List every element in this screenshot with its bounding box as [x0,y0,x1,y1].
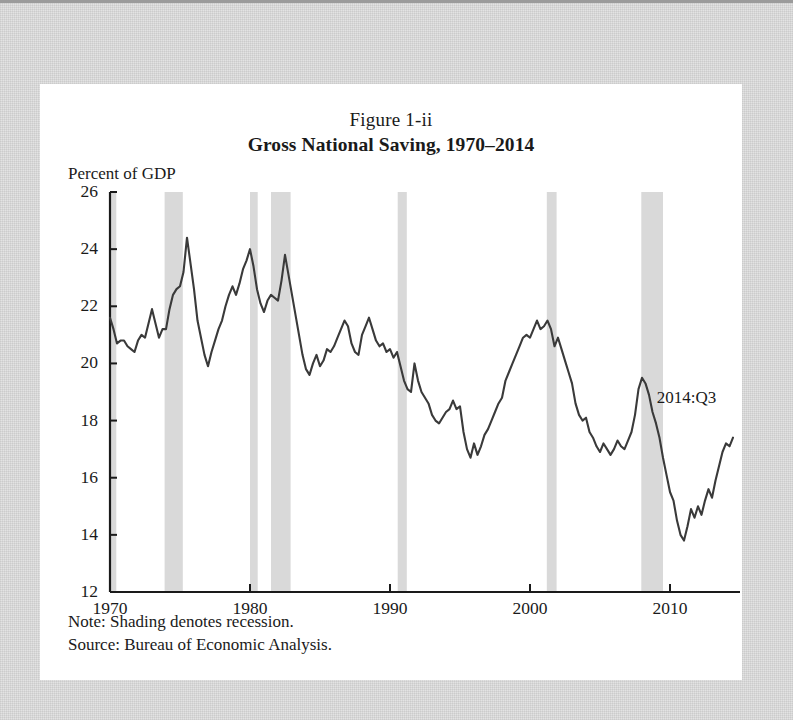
y-tick-label: 20 [58,354,98,372]
y-tick-label: 18 [58,412,98,430]
figure-note: Note: Shading denotes recession. [68,612,294,632]
recession-band [165,192,183,592]
y-tick-label: 12 [58,583,98,601]
x-tick-marks [110,584,670,592]
figure-source: Source: Bureau of Economic Analysis. [68,635,332,655]
plot-area: 1214161820222426 19701980199020002010 20… [110,192,740,592]
series-annotation-label: 2014:Q3 [657,388,717,408]
recession-band [398,192,407,592]
figure-container: Figure 1-ii Gross National Saving, 1970–… [40,84,742,680]
y-tick-label: 16 [58,469,98,487]
recession-band [271,192,291,592]
figure-title: Gross National Saving, 1970–2014 [40,134,742,156]
y-tick-label: 22 [58,297,98,315]
x-tick-label: 1990 [355,600,425,618]
y-tick-label: 14 [58,526,98,544]
recession-band-group [109,192,663,592]
figure-number: Figure 1-ii [40,109,742,131]
y-tick-label: 26 [58,183,98,201]
x-tick-label: 2000 [495,600,565,618]
y-tick-label: 24 [58,240,98,258]
x-tick-label: 2010 [635,600,705,618]
scan-top-edge [0,0,793,3]
saving-series-line [110,238,733,541]
recession-band [547,192,557,592]
chart-plot [110,192,740,592]
